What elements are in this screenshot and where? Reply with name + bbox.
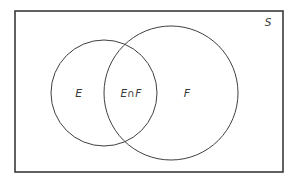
- set-f-label: F: [184, 87, 191, 100]
- universe-label: S: [265, 16, 272, 28]
- venn-diagram-canvas: S E E∩F F: [0, 0, 297, 185]
- universe-rectangle: [15, 11, 283, 172]
- set-intersection-label: E∩F: [121, 87, 143, 99]
- venn-diagram-figure: S E E∩F F: [0, 0, 297, 185]
- set-e-label: E: [75, 87, 82, 100]
